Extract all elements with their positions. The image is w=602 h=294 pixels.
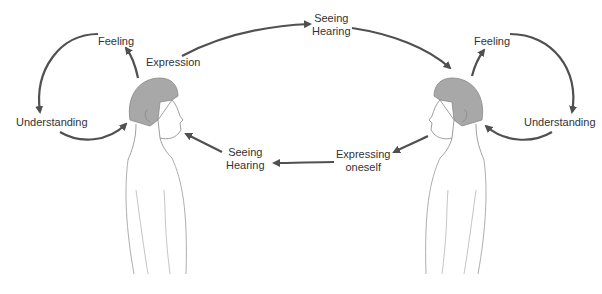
bottom-seeing-label: Seeing (226, 146, 265, 159)
right-feeling-label: Feeling (474, 35, 510, 48)
right-person-neck-front (440, 138, 452, 158)
top-channel-label: Seeing Hearing (312, 12, 351, 38)
right-person-figure (426, 78, 486, 274)
top-arrow-seeing-hearing-to-right-head (352, 28, 450, 68)
top-arrow-expression-to-seeing-hearing (182, 24, 310, 56)
right-person-torso-back (478, 160, 486, 274)
left-person-face (158, 100, 183, 139)
right-loop-arrow-feeling-to-understanding (510, 34, 573, 112)
right-person-face (429, 100, 454, 139)
bottom-channel-label: Seeing Hearing (226, 146, 265, 172)
bottom-arrow-right-face-to-expressing (394, 136, 428, 152)
left-loop-arrow-feeling-to-understanding (39, 34, 98, 112)
bottom-arrow-seeing-hearing-to-left-face (186, 134, 222, 152)
diagram-graphics (0, 0, 602, 294)
left-feeling-label: Feeling (98, 35, 134, 48)
left-person-arm (136, 190, 170, 274)
expressing-label: Expressing (336, 148, 390, 161)
left-understanding-label: Understanding (16, 116, 88, 129)
left-loop-arrow-head-to-feeling (126, 48, 138, 78)
expression-label: Expression (146, 56, 200, 69)
bottom-arrow-expressing-to-seeing-hearing (274, 162, 334, 163)
expressing-oneself-label: Expressing oneself (336, 148, 390, 174)
left-person-neck-back (128, 124, 136, 160)
right-person-neck-back (476, 124, 484, 160)
bottom-hearing-label: Hearing (226, 159, 265, 172)
right-understanding-label: Understanding (524, 116, 596, 129)
oneself-label: oneself (336, 161, 390, 174)
left-person-torso-back (126, 160, 134, 274)
left-person-figure (126, 78, 186, 274)
left-person-neck-front (160, 138, 172, 158)
top-seeing-label: Seeing (312, 12, 351, 25)
right-person-torso-front (426, 158, 440, 274)
communication-diagram: Feeling Understanding Expression Seeing … (0, 0, 602, 294)
top-hearing-label: Hearing (312, 25, 351, 38)
right-loop-arrow-head-to-feeling (472, 50, 484, 76)
right-person-arm (442, 190, 476, 274)
left-person-torso-front (172, 158, 186, 274)
